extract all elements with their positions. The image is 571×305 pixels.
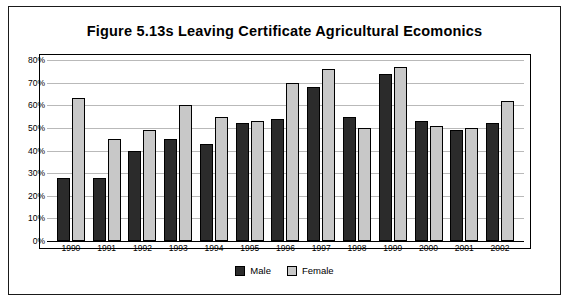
figure-panel: Figure 5.13s Leaving Certificate Agricul… bbox=[8, 6, 561, 295]
y-axis-tick-label: 30% bbox=[11, 168, 45, 178]
bar-group bbox=[303, 60, 339, 241]
bar-groups bbox=[47, 60, 524, 241]
bar-female-1994 bbox=[215, 117, 228, 241]
y-axis-tick-label: 50% bbox=[11, 123, 45, 133]
x-axis-tick-label: 1995 bbox=[232, 243, 268, 259]
bar-male-2001 bbox=[450, 130, 463, 241]
bar-female-2002 bbox=[501, 101, 514, 241]
x-axis-tick-label: 2001 bbox=[446, 243, 482, 259]
y-axis-tick-label: 70% bbox=[11, 78, 45, 88]
x-axis-tick-label: 1993 bbox=[160, 243, 196, 259]
bar-group bbox=[232, 60, 268, 241]
bar-group bbox=[89, 60, 125, 241]
x-axis-tick-label: 1990 bbox=[53, 243, 89, 259]
y-axis-labels: 0%10%20%30%40%50%60%70%80% bbox=[9, 60, 45, 241]
bar-group bbox=[339, 60, 375, 241]
y-axis-tick-label: 10% bbox=[11, 213, 45, 223]
bar-group bbox=[125, 60, 161, 241]
bar-male-1999 bbox=[379, 74, 392, 241]
legend-swatch-female bbox=[287, 266, 297, 276]
bar-female-1995 bbox=[251, 121, 264, 241]
x-axis-tick-label: 1997 bbox=[303, 243, 339, 259]
plot-area bbox=[47, 60, 524, 241]
bar-male-1996 bbox=[271, 119, 284, 241]
x-axis-tick-label: 1999 bbox=[375, 243, 411, 259]
x-axis-tick-label: 1991 bbox=[89, 243, 125, 259]
bar-male-1998 bbox=[343, 117, 356, 241]
legend-item-male: Male bbox=[235, 265, 271, 276]
bar-male-2000 bbox=[415, 121, 428, 241]
bar-group bbox=[196, 60, 232, 241]
bar-male-1993 bbox=[164, 139, 177, 241]
bar-male-1995 bbox=[236, 123, 249, 241]
legend-label-female: Female bbox=[302, 265, 334, 276]
bar-male-1997 bbox=[307, 87, 320, 241]
bar-group bbox=[446, 60, 482, 241]
legend-swatch-male bbox=[235, 266, 245, 276]
bar-female-1991 bbox=[108, 139, 121, 241]
y-axis-tick-label: 0% bbox=[11, 236, 45, 246]
bar-female-2001 bbox=[465, 128, 478, 241]
bar-female-1990 bbox=[72, 98, 85, 241]
bar-female-1999 bbox=[394, 67, 407, 241]
y-axis-tick-label: 60% bbox=[11, 100, 45, 110]
legend-item-female: Female bbox=[287, 265, 334, 276]
bar-male-1991 bbox=[93, 178, 106, 241]
bar-female-2000 bbox=[430, 126, 443, 241]
y-axis-tick-label: 40% bbox=[11, 146, 45, 156]
bar-male-1994 bbox=[200, 144, 213, 241]
bar-female-1993 bbox=[179, 105, 192, 241]
y-axis-tick-label: 80% bbox=[11, 55, 45, 65]
bar-male-1990 bbox=[57, 178, 70, 241]
x-axis-tick-label: 1994 bbox=[196, 243, 232, 259]
chart-legend: Male Female bbox=[9, 265, 560, 276]
bar-group bbox=[53, 60, 89, 241]
x-axis-tick-label: 2000 bbox=[411, 243, 447, 259]
x-axis-tick-label: 2002 bbox=[482, 243, 518, 259]
x-axis-line bbox=[47, 241, 524, 242]
bar-female-1998 bbox=[358, 128, 371, 241]
x-axis-tick-label: 1996 bbox=[268, 243, 304, 259]
bar-female-1997 bbox=[322, 69, 335, 241]
bar-male-1992 bbox=[128, 151, 141, 242]
y-axis-tick-label: 20% bbox=[11, 191, 45, 201]
bar-group bbox=[411, 60, 447, 241]
chart-title: Figure 5.13s Leaving Certificate Agricul… bbox=[9, 23, 560, 39]
bar-group bbox=[375, 60, 411, 241]
x-axis-tick-label: 1998 bbox=[339, 243, 375, 259]
bar-group bbox=[268, 60, 304, 241]
legend-label-male: Male bbox=[250, 265, 271, 276]
x-axis-tick-label: 1992 bbox=[125, 243, 161, 259]
bar-male-2002 bbox=[486, 123, 499, 241]
bar-group bbox=[160, 60, 196, 241]
bar-female-1992 bbox=[143, 130, 156, 241]
bar-group bbox=[482, 60, 518, 241]
bar-female-1996 bbox=[286, 83, 299, 241]
x-axis-labels: 1990199119921993199419951996199719981999… bbox=[47, 243, 524, 259]
